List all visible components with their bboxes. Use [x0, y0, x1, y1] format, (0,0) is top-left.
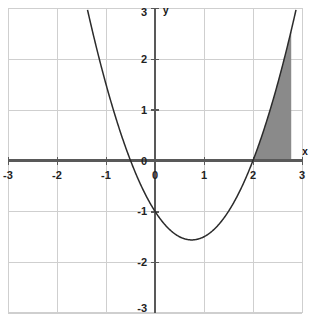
y-tick-label: -2 [137, 256, 147, 268]
parabola-plot: -3-2-10123-3-2-10123 x y [0, 0, 315, 325]
x-tick-label: -2 [52, 169, 62, 181]
y-tick-label: 2 [141, 53, 147, 65]
y-tick-label: 0 [141, 155, 147, 167]
x-tick-label: 2 [250, 169, 256, 181]
x-tick-label: 0 [152, 169, 158, 181]
x-tick-label: 1 [201, 169, 207, 181]
y-tick-label: 1 [141, 104, 147, 116]
y-tick-label: -1 [137, 205, 147, 217]
y-axis-label: y [163, 5, 169, 16]
chart-container: -3-2-10123-3-2-10123 x y [0, 0, 315, 325]
x-tick-label: -1 [101, 169, 111, 181]
x-tick-label: 3 [299, 169, 305, 181]
x-axis-label: x [302, 146, 308, 157]
y-tick-label: 3 [141, 6, 147, 18]
x-tick-label: -3 [3, 169, 13, 181]
y-tick-label: -3 [137, 302, 147, 314]
plot-background [0, 0, 315, 325]
